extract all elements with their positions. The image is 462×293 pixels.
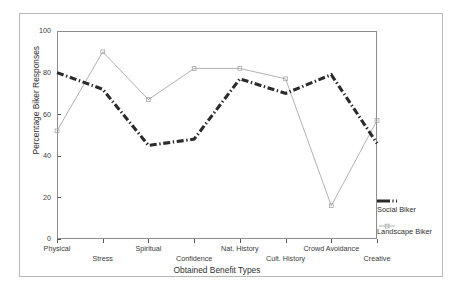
- plot-area: [57, 31, 377, 239]
- x-tick-label: Nat. History: [221, 245, 259, 252]
- y-tick-label: 60: [43, 111, 51, 118]
- y-tick-label: 20: [43, 194, 51, 201]
- x-tick-label: Cult. History: [266, 255, 305, 262]
- y-axis-title-container: Percentage Biker Responses: [14, 0, 34, 293]
- x-tick-label: Crowd Avoidance: [303, 245, 359, 252]
- x-tick-label: Spiritual: [135, 245, 161, 252]
- y-axis-tick-labels: 020406080100: [33, 31, 51, 239]
- x-tick-label: Confidence: [176, 255, 212, 262]
- legend-swatch-social-biker: [377, 192, 399, 202]
- x-axis-title: Obtained Benefit Types: [57, 265, 377, 275]
- x-tick-mark: [148, 239, 149, 243]
- x-tick-mark: [240, 239, 241, 243]
- x-tick-label: Creative: [364, 255, 391, 262]
- legend-swatch-landscape-biker: [377, 217, 399, 227]
- chart-figure: Percentage Biker Responses 020406080100 …: [0, 0, 462, 293]
- x-tick-label: Physical: [44, 245, 71, 252]
- x-tick-mark: [103, 239, 104, 243]
- series-canvas: [57, 31, 377, 239]
- x-tick-mark: [286, 239, 287, 243]
- chart-legend: Social BikerLandscape Biker: [377, 192, 459, 240]
- y-tick-label: 40: [43, 152, 51, 159]
- x-tick-mark: [331, 239, 332, 243]
- x-tick-mark: [57, 239, 58, 243]
- series-line-landscape-biker: [57, 52, 377, 206]
- y-tick-label: 80: [43, 69, 51, 76]
- x-tick-mark: [194, 239, 195, 243]
- legend-label-social-biker: Social Biker: [377, 206, 416, 213]
- series-line-social-biker: [57, 73, 377, 146]
- legend-label-landscape-biker: Landscape Biker: [377, 228, 432, 235]
- x-tick-label: Stress: [93, 255, 113, 262]
- y-tick-label: 100: [39, 27, 51, 34]
- y-tick-label: 0: [47, 235, 51, 242]
